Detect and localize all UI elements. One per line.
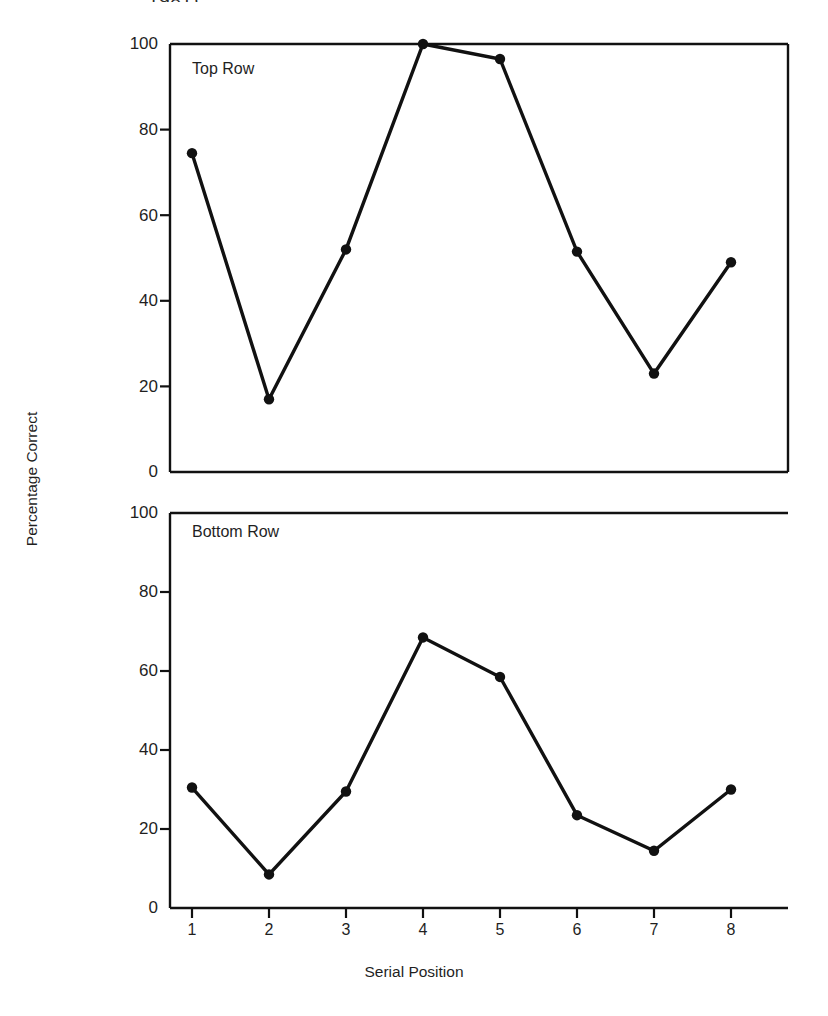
- data-point-marker: [726, 784, 736, 794]
- data-point-marker: [264, 394, 274, 404]
- series-line: [192, 637, 731, 874]
- data-point-marker: [572, 810, 582, 820]
- data-point-marker: [264, 869, 274, 879]
- data-point-marker: [649, 846, 659, 856]
- plot-canvas: [0, 0, 828, 1016]
- data-point-marker: [495, 672, 505, 682]
- data-point-marker: [187, 782, 197, 792]
- data-point-marker: [726, 257, 736, 267]
- series-line: [192, 44, 731, 399]
- data-point-marker: [572, 246, 582, 256]
- serial-position-figure: 1981). Percentage Correct Serial Positio…: [0, 0, 828, 1016]
- data-point-marker: [341, 244, 351, 254]
- top-row-series: [187, 39, 736, 405]
- data-point-marker: [418, 632, 428, 642]
- data-point-marker: [649, 368, 659, 378]
- bottom-row-series: [187, 632, 736, 879]
- data-point-marker: [187, 148, 197, 158]
- data-point-marker: [495, 54, 505, 64]
- top-panel-axes: [160, 44, 788, 472]
- data-point-marker: [341, 786, 351, 796]
- data-point-marker: [418, 39, 428, 49]
